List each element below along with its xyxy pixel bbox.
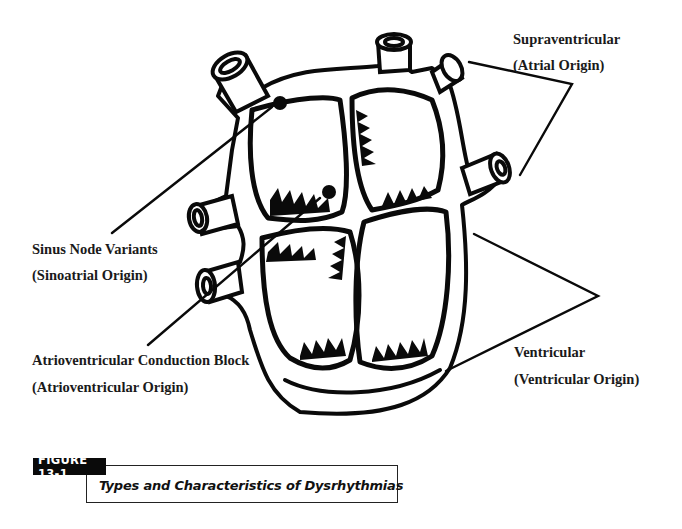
figure-number: FIGURE 13-1	[33, 458, 106, 475]
sinoatrial-node	[273, 96, 287, 110]
sinus-node-label: Sinus Node Variants	[32, 242, 158, 257]
supraventricular-label: Supraventricular	[513, 32, 620, 47]
av-block-label: Atrioventricular Conduction Block	[32, 353, 249, 368]
av-origin-label: (Atrioventricular Origin)	[32, 380, 188, 395]
vessel-top-right	[377, 34, 411, 72]
sinoatrial-origin-label: (Sinoatrial Origin)	[32, 268, 148, 283]
figure-title: Types and Characteristics of Dysrhythmia…	[99, 478, 403, 493]
ventricular-label: Ventricular	[514, 345, 585, 360]
vessel-top-left	[208, 47, 268, 112]
atrial-origin-label: (Atrial Origin)	[513, 58, 604, 73]
vessel-left-lower	[196, 262, 242, 303]
vessel-right-upper	[432, 51, 467, 92]
ventricular-origin-label: (Ventricular Origin)	[514, 372, 639, 387]
vessel-right-mid	[462, 151, 514, 194]
heart-diagram	[0, 0, 682, 529]
atrioventricular-node	[322, 185, 336, 199]
